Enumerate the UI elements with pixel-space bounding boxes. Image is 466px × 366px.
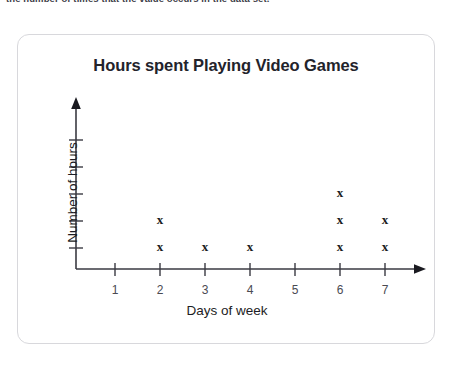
- data-point-x-mark: x: [247, 239, 254, 254]
- x-tick-label: 6: [337, 283, 344, 297]
- x-tick-label: 5: [292, 283, 299, 297]
- data-point-x-mark: x: [382, 212, 389, 227]
- data-marks-layer: xxxxxxxxx: [157, 185, 389, 254]
- data-point-x-mark: x: [337, 212, 344, 227]
- instruction-note: the number of times that the value occur…: [6, 0, 456, 4]
- chart-svg: 1 2 3 4 5 6 7 xxxxxxxxx: [18, 35, 436, 345]
- data-point-x-mark: x: [337, 239, 344, 254]
- x-axis-label: Days of week: [18, 303, 436, 318]
- chart-card: Hours spent Playing Video Games: [17, 34, 435, 344]
- plot-area: 1 2 3 4 5 6 7 xxxxxxxxx Number of hours: [18, 35, 436, 345]
- y-axis-label: Number of hours: [65, 118, 80, 268]
- x-tick-label: 4: [247, 283, 254, 297]
- x-tick-label: 3: [202, 283, 209, 297]
- x-tick-label: 7: [382, 283, 389, 297]
- x-axis-arrow-icon: [414, 264, 426, 274]
- data-point-x-mark: x: [202, 239, 209, 254]
- data-point-x-mark: x: [382, 239, 389, 254]
- data-point-x-mark: x: [157, 239, 164, 254]
- x-tick-label: 2: [157, 283, 164, 297]
- data-point-x-mark: x: [337, 185, 344, 200]
- x-tick-label: 1: [112, 283, 119, 297]
- x-axis-tick-labels: 1 2 3 4 5 6 7: [112, 283, 389, 297]
- data-point-x-mark: x: [157, 212, 164, 227]
- y-axis-arrow-icon: [71, 97, 81, 109]
